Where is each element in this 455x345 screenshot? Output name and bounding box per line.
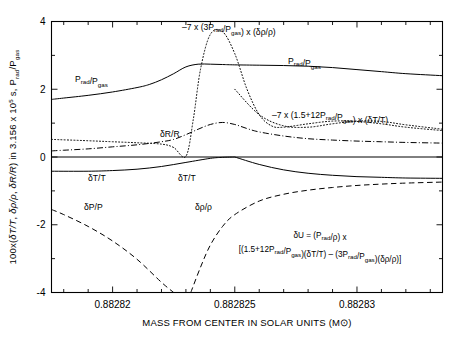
y-tick-label: -4 (37, 287, 46, 298)
x-axis-title: MASS FROM CENTER IN SOLAR UNITS (M⊙) (142, 317, 351, 328)
y-axis-title: 100x(δT/T, δρ/ρ, δR/R) in 3.156 x 105 s,… (7, 50, 20, 265)
y-title-sub1: rad (13, 69, 20, 79)
y-title-drho: δρ/ρ (7, 194, 18, 214)
x-tick-label: 0.882825 (214, 299, 256, 310)
y-tick-label: -2 (37, 219, 46, 230)
svg-text:100x(δT/T, δρ/ρ, δR/R) in 3.15: 100x(δT/T, δρ/ρ, δR/R) in 3.156 x 105 s,… (7, 50, 20, 265)
x-tick-label: 0.88282 (95, 299, 132, 310)
y-title-p3: s, P (7, 79, 18, 99)
y-tick-label: 0 (40, 152, 46, 163)
y-title-p1: 100x( (7, 239, 18, 264)
y-title-dT: δT/T (7, 218, 18, 239)
y-title-p4: /P (7, 60, 18, 69)
label-deltaR-R: δR/R (160, 129, 180, 139)
chart-background (0, 0, 455, 345)
y-title-p2: ) in 3.156 x 10 (7, 103, 18, 166)
chart-figure: 420-2-4 0.882820.8828250.88283 100x(δT/T… (0, 0, 455, 345)
x-tick-label: 0.88283 (339, 299, 376, 310)
y-title-sub2: gas (13, 50, 20, 61)
label-deltarho-rho: δρ/ρ (195, 202, 212, 212)
y-tick-label: 4 (40, 16, 46, 27)
label-deltaT-T-left: δT/T (88, 173, 106, 183)
label-deltaT-T-right: δT/T (178, 173, 196, 183)
y-tick-label: 2 (40, 84, 46, 95)
label-deltaP-P: δP/P (84, 202, 103, 212)
chart-canvas: 420-2-4 0.882820.8828250.88283 100x(δT/T… (0, 0, 455, 345)
y-title-dR: δR/R (7, 166, 18, 188)
